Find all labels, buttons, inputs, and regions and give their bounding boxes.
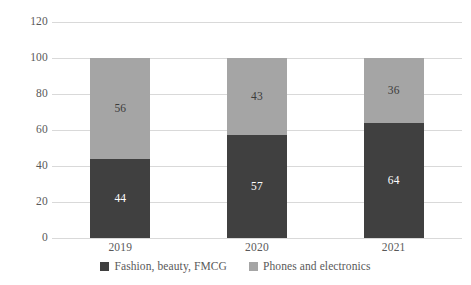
- legend-swatch-fashion-icon: [100, 262, 109, 271]
- y-axis-tick-label: 60: [4, 124, 48, 136]
- bar-segment[interactable]: 36: [364, 58, 424, 123]
- legend-entry-fashion[interactable]: Fashion, beauty, FMCG: [100, 261, 227, 273]
- bar-segment[interactable]: 56: [90, 58, 150, 159]
- bar-segment[interactable]: 44: [90, 159, 150, 238]
- bar-segment[interactable]: 43: [227, 58, 287, 135]
- legend-label-phones: Phones and electronics: [263, 261, 371, 273]
- y-axis-tick-label: 100: [4, 52, 48, 64]
- y-axis-tick-label: 0: [4, 232, 48, 244]
- bar-data-label: 64: [388, 175, 400, 187]
- gridline: [52, 22, 462, 23]
- bar-group[interactable]: 4357: [227, 58, 287, 238]
- bar-segment[interactable]: 57: [227, 135, 287, 238]
- bar-data-label: 56: [114, 103, 126, 115]
- bar-data-label: 44: [114, 193, 126, 205]
- x-axis-tick-label: 2021: [344, 242, 444, 254]
- x-axis-tick-label: 2020: [207, 242, 307, 254]
- plot-area: 564443573664: [52, 22, 462, 238]
- legend-label-fashion: Fashion, beauty, FMCG: [114, 261, 227, 273]
- bar-data-label: 57: [251, 181, 263, 193]
- chart-legend: Fashion, beauty, FMCG Phones and electro…: [0, 261, 471, 273]
- y-axis-tick-label: 20: [4, 196, 48, 208]
- legend-entry-phones[interactable]: Phones and electronics: [249, 261, 371, 273]
- bar-group[interactable]: 5644: [90, 58, 150, 238]
- y-axis-tick-label: 80: [4, 88, 48, 100]
- gridline: [52, 238, 462, 239]
- bar-data-label: 36: [388, 85, 400, 97]
- y-axis-tick-label: 40: [4, 160, 48, 172]
- x-axis-tick-label: 2019: [70, 242, 170, 254]
- bar-data-label: 43: [251, 91, 263, 103]
- y-axis: 020406080100120: [0, 0, 48, 285]
- y-axis-tick-label: 120: [4, 16, 48, 28]
- bar-segment[interactable]: 64: [364, 123, 424, 238]
- bar-group[interactable]: 3664: [364, 58, 424, 238]
- stacked-bar-chart: 020406080100120 564443573664 20192020202…: [0, 0, 471, 285]
- legend-swatch-phones-icon: [249, 262, 258, 271]
